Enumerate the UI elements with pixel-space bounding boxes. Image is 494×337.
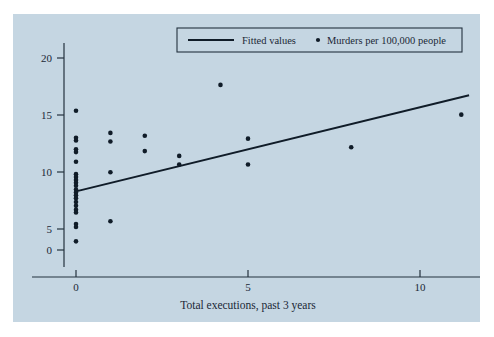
axes-group <box>32 43 480 277</box>
x-axis-title: Total executions, past 3 years <box>180 299 316 312</box>
y-tick-label-5: 5 <box>47 223 53 235</box>
data-point <box>143 149 148 154</box>
data-point <box>177 162 182 167</box>
y-ticks-group <box>57 58 64 250</box>
y-tick-label-10: 10 <box>41 166 53 178</box>
data-point <box>74 159 79 164</box>
data-point <box>143 133 148 138</box>
data-point <box>177 154 182 159</box>
chart-figure: 20 15 10 5 0 0 5 10 Total executions, pa… <box>13 14 480 322</box>
legend-label-murders: Murders per 100,000 people <box>327 35 446 46</box>
data-point <box>108 219 113 224</box>
data-point <box>74 239 79 244</box>
data-point <box>246 136 251 141</box>
data-points-layer <box>74 83 464 244</box>
x-tick-labels: 0 5 10 <box>73 281 426 293</box>
x-tick-label-5: 5 <box>245 281 251 293</box>
data-point <box>74 225 79 230</box>
scatter-plot: 20 15 10 5 0 0 5 10 Total executions, pa… <box>13 14 480 322</box>
data-point <box>74 138 79 143</box>
data-point <box>108 170 113 175</box>
y-tick-label-20: 20 <box>41 52 53 64</box>
data-point <box>459 112 464 117</box>
x-tick-label-0: 0 <box>73 281 79 293</box>
y-tick-labels: 20 15 10 5 0 <box>41 52 53 256</box>
x-tick-label-10: 10 <box>415 281 427 293</box>
data-point <box>74 150 79 155</box>
data-point <box>74 210 79 215</box>
y-tick-label-0: 0 <box>47 244 53 256</box>
data-point <box>74 109 79 114</box>
fitted-line-layer <box>76 95 468 191</box>
data-point <box>108 131 113 136</box>
fitted-values-line <box>76 95 468 191</box>
x-ticks-group <box>76 270 420 277</box>
legend-label-fitted-values: Fitted values <box>242 35 296 46</box>
data-point <box>349 145 354 150</box>
data-point <box>218 83 223 88</box>
data-point <box>108 139 113 144</box>
y-tick-label-15: 15 <box>41 109 53 121</box>
legend: Fitted values Murders per 100,000 people <box>177 28 462 52</box>
legend-dot-swatch <box>316 38 320 42</box>
data-point <box>246 162 251 167</box>
